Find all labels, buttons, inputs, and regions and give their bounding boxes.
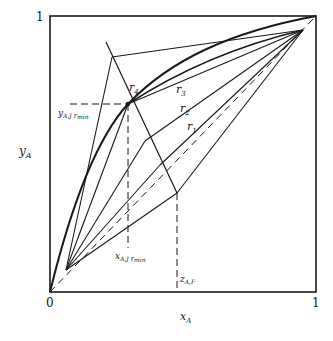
label-x-min: xA,Jrmin (115, 251, 146, 263)
upper-operating-lines (112, 30, 303, 193)
label-y-min: yA,Jrmin (57, 108, 89, 120)
mccabe-thiele-diagram: 1 1 0 yA xA r4 r3 r2 r1 yA,Jrmin xA,Jrmi… (0, 0, 333, 341)
y-axis-label: yA (18, 144, 32, 160)
pinch-point (126, 102, 130, 106)
origin-label: 0 (46, 296, 54, 310)
label-r4: r4 (129, 81, 139, 96)
label-r1: r1 (187, 120, 197, 135)
lower-operating-lines (66, 57, 177, 270)
diagonal-line (50, 16, 316, 292)
x-max-label: 1 (312, 296, 320, 310)
y-max-label: 1 (36, 10, 44, 24)
label-z-feed: zA,F (179, 274, 196, 285)
label-r3: r3 (176, 83, 186, 98)
label-r2: r2 (180, 102, 190, 117)
x-axis-label: xA (180, 310, 191, 325)
